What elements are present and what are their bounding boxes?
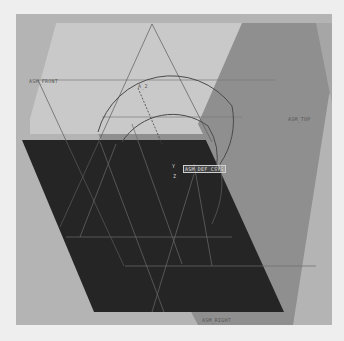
csys-z-axis-label: Z (173, 173, 176, 179)
asm-right-label[interactable]: ASM_RIGHT (202, 317, 231, 323)
graphics-viewport[interactable]: ASM_FRONT ASM_TOP ASM_RIGHT A_2 Y Z ASM_… (16, 14, 332, 325)
csys-y-axis-label: Y (172, 163, 175, 169)
asm-front-label[interactable]: ASM_FRONT (29, 78, 58, 84)
csys-label[interactable]: ASM_DEF_CSYS (183, 165, 226, 173)
csys-marker[interactable]: Y Z (172, 163, 176, 177)
asm-top-label[interactable]: ASM_TOP (288, 116, 310, 122)
dimension-label[interactable]: A_2 (138, 83, 148, 89)
